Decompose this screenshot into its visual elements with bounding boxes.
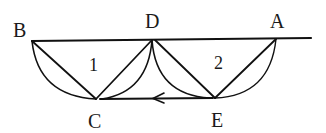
segment-e-c	[100, 98, 213, 99]
segment-c-d	[96, 40, 152, 99]
label-d: D	[145, 10, 159, 32]
segment-e-a	[215, 39, 276, 98]
label-a: A	[270, 10, 285, 32]
region-2-label: 2	[214, 53, 223, 73]
diagram-svg: B D A C E 1 2	[0, 0, 326, 133]
segment-d-e	[155, 40, 215, 98]
diagram-canvas: B D A C E 1 2	[0, 0, 326, 133]
label-b: B	[13, 19, 26, 41]
region-1-label: 1	[89, 55, 98, 75]
top-line	[32, 38, 311, 41]
label-e: E	[211, 109, 223, 131]
label-c: C	[88, 110, 101, 132]
arc-d-e	[152, 40, 210, 98]
